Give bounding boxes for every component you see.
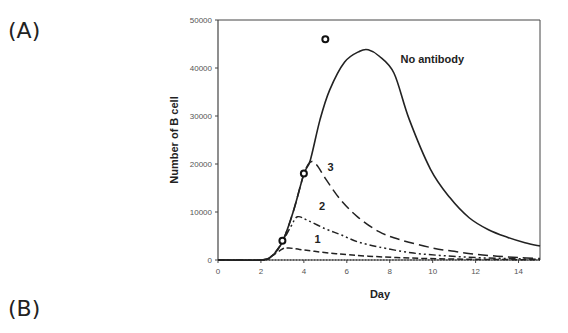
series-lines [218,49,540,260]
y-tick-label: 0 [208,256,213,265]
series-label: No antibody [400,53,464,65]
y-axis-title: Number of B cell [168,96,180,183]
y-tick-label: 40000 [190,64,213,73]
series-label: 3 [327,161,333,173]
x-tick-label: 14 [514,267,523,276]
series-label: 1 [315,233,321,245]
y-tick-label: 50000 [190,16,213,25]
x-tick-label: 0 [216,267,221,276]
series-label: 2 [319,200,325,212]
x-tick-label: 4 [302,267,307,276]
data-point-marker [322,36,328,42]
x-tick-label: 10 [428,267,437,276]
line-chart: 02468101214 01000020000300004000050000 N… [0,0,568,333]
x-tick-label: 8 [388,267,393,276]
y-tick-label: 20000 [190,160,213,169]
series-line-no-antibody [218,49,540,260]
series-line-3 [218,162,540,261]
data-point-marker [301,171,307,177]
x-axis: 02468101214 [216,260,524,276]
x-tick-label: 2 [259,267,264,276]
x-tick-label: 12 [471,267,480,276]
series-line-2 [218,217,540,261]
x-tick-label: 6 [345,267,350,276]
data-point-marker [279,238,285,244]
y-tick-label: 10000 [190,208,213,217]
data-markers [279,36,328,244]
y-axis: 01000020000300004000050000 [190,16,218,265]
x-axis-title: Day [370,288,391,300]
y-tick-label: 30000 [190,112,213,121]
series-labels: No antibody321 [315,53,465,245]
